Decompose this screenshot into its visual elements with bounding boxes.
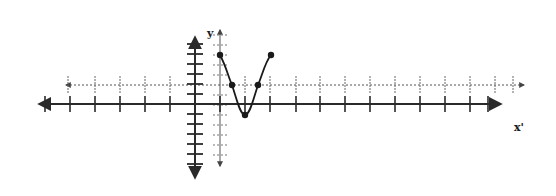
x-axis-label: x' [514,121,524,134]
solid-y-axis [187,38,203,177]
graph-svg: y x' [0,0,556,196]
curve-point-mid-descending [229,82,235,88]
curve-point-start [217,52,223,58]
curve-point-minimum [242,112,248,118]
graph-figure: y x' [0,0,556,196]
solid-x-axis [40,96,500,112]
curve-point-mid-ascending [255,82,261,88]
dotted-x-axis [66,76,524,94]
curve-point-end [268,52,274,58]
y-axis-label: y [206,27,214,40]
